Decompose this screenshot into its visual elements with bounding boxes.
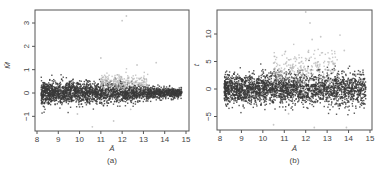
- x-tick-label: 14: [344, 134, 353, 143]
- x-tick-label: 13: [139, 135, 148, 144]
- chart-panel-a: 89101112131415−10123ĀM̄(a): [0, 0, 192, 177]
- plot-frame: [35, 10, 189, 131]
- x-tick-label: 12: [301, 134, 310, 143]
- x-tick-label: 15: [366, 134, 375, 143]
- x-tick-label: 14: [160, 135, 169, 144]
- y-tick-label: −1: [22, 111, 31, 121]
- panel-caption: (b): [290, 156, 300, 165]
- x-tick-label: 13: [323, 134, 332, 143]
- x-tick-label: 12: [118, 135, 127, 144]
- y-tick-label: 2: [22, 44, 31, 49]
- x-tick-label: 9: [239, 134, 244, 143]
- y-axis-label: t: [192, 63, 201, 66]
- x-axis-label: Ā: [291, 144, 297, 153]
- y-tick-label: −5: [204, 111, 213, 121]
- y-tick-label: 5: [204, 59, 213, 64]
- y-tick-label: 1: [22, 67, 31, 72]
- x-tick-label: 11: [97, 135, 106, 144]
- y-tick-label: 10: [204, 29, 213, 38]
- x-tick-label: 8: [218, 134, 223, 143]
- y-tick-label: 0: [204, 86, 213, 91]
- y-axis-label: M̄: [3, 62, 12, 69]
- y-tick-label: 0: [22, 90, 31, 95]
- x-tick-label: 10: [258, 134, 267, 143]
- panel-caption: (a): [107, 156, 117, 165]
- y-tick-label: 3: [22, 20, 31, 25]
- x-tick-label: 10: [75, 135, 84, 144]
- x-tick-label: 11: [280, 134, 289, 143]
- plot-frame: [217, 10, 372, 130]
- x-axis-label: Ā: [108, 144, 114, 153]
- x-tick-label: 8: [35, 135, 40, 144]
- x-tick-label: 9: [56, 135, 61, 144]
- chart-panel-b: 89101112131415−50510Āt(b): [182, 0, 384, 177]
